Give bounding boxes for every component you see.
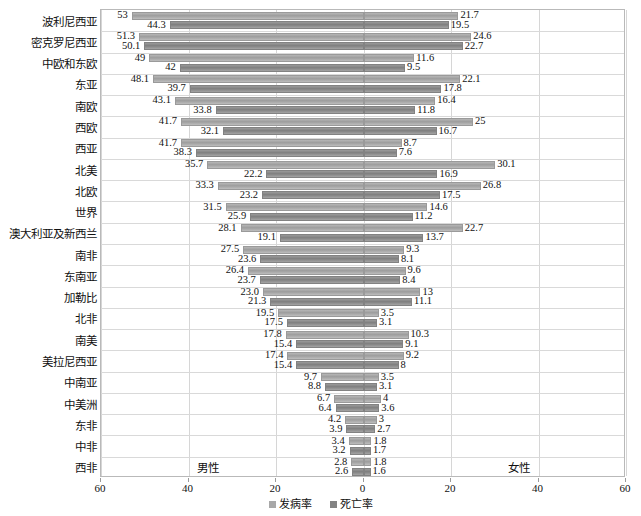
category-label-1: 密克罗尼西亚: [0, 34, 97, 50]
bar-right-mor: [364, 447, 371, 455]
bar-right-inc: [364, 139, 402, 147]
bar-row: 17.815.410.39.1: [101, 329, 624, 350]
x-tick-label-4: 20: [445, 482, 456, 494]
value-label-right-mor: 9.5: [407, 62, 420, 72]
legend-swatch-icon: [269, 501, 276, 508]
bar-left-mor: [280, 234, 364, 242]
category-label-16: 美拉尼西亚: [0, 353, 97, 369]
bar-right-inc: [364, 331, 409, 339]
value-label-left-mor: 2.6: [335, 466, 348, 476]
gridline-60: [626, 10, 627, 476]
value-label-left-mor: 50.1: [122, 41, 140, 51]
category-label-11: 南非: [0, 247, 97, 263]
bar-right-inc: [364, 395, 382, 403]
value-label-left-inc: 48.1: [131, 74, 149, 84]
value-label-left-inc: 43.1: [153, 95, 171, 105]
bar-right-mor: [364, 64, 406, 72]
bar-row: 494211.69.5: [101, 53, 624, 74]
value-label-right-mor: 1.6: [373, 466, 386, 476]
bar-right-mor: [364, 234, 424, 242]
side-caption-female: 女性: [508, 459, 530, 475]
legend-label: 发病率: [279, 498, 312, 510]
bar-row: 3.43.21.81.7: [101, 435, 624, 456]
bar-right-mor: [364, 425, 376, 433]
chart-legend: 发病率死亡率: [0, 495, 641, 511]
legend-item-incidence[interactable]: 发病率: [269, 495, 312, 511]
bar-right-inc: [364, 246, 405, 254]
bar-left-mor: [144, 42, 363, 50]
bar-right-mor: [364, 298, 413, 306]
bar-row: 23.021.31311.1: [101, 287, 624, 308]
value-label-left-mor: 42: [165, 62, 176, 72]
value-label-left-mor: 22.2: [244, 169, 262, 179]
bar-row: 28.119.122.713.7: [101, 223, 624, 244]
value-label-left-inc: 53: [117, 10, 128, 20]
bar-right-mor: [364, 340, 404, 348]
bar-left-mor: [350, 447, 364, 455]
bar-right-mor: [364, 276, 401, 284]
value-label-right-mor: 17.8: [443, 83, 461, 93]
bar-right-inc: [364, 352, 404, 360]
value-label-right-mor: 16.9: [439, 169, 457, 179]
legend-item-mortality[interactable]: 死亡率: [330, 495, 373, 511]
bar-left-inc: [287, 352, 363, 360]
bar-left-inc: [226, 203, 364, 211]
bar-right-mor: [364, 468, 371, 476]
category-label-8: 北欧: [0, 183, 97, 199]
category-label-4: 南欧: [0, 98, 97, 114]
bar-left-inc: [207, 161, 363, 169]
bar-left-inc: [345, 416, 363, 424]
bar-left-inc: [286, 331, 364, 339]
bar-left-inc: [139, 33, 363, 41]
bar-left-mor: [266, 170, 363, 178]
value-label-left-inc: 35.7: [185, 159, 203, 169]
value-label-left-mor: 6.4: [318, 403, 331, 413]
bar-row: 17.415.49.28: [101, 350, 624, 371]
value-label-left-mor: 32.1: [201, 126, 219, 136]
value-label-left-mor: 39.7: [167, 83, 185, 93]
bar-row: 27.523.69.38.1: [101, 244, 624, 265]
bar-right-mor: [364, 404, 380, 412]
bar-left-mor: [352, 468, 363, 476]
value-label-right-mor: 9.1: [405, 339, 418, 349]
value-label-left-mor: 33.8: [193, 105, 211, 115]
bar-right-inc: [364, 12, 459, 20]
bar-right-mor: [364, 21, 449, 29]
bar-row: 19.517.53.53.1: [101, 308, 624, 329]
value-label-left-mor: 15.4: [274, 360, 292, 370]
value-label-right-mor: 11.2: [415, 211, 433, 221]
category-label-15: 南美: [0, 332, 97, 348]
category-label-17: 中南亚: [0, 374, 97, 390]
value-label-right-inc: 9.2: [406, 350, 419, 360]
x-tick-label-0: 60: [95, 482, 106, 494]
value-label-left-mor: 17.5: [265, 317, 283, 327]
bar-row: 51.350.124.622.7: [101, 31, 624, 52]
bar-left-mor: [180, 64, 364, 72]
bar-left-mor: [325, 383, 364, 391]
category-label-2: 中欧和东欧: [0, 55, 97, 71]
bar-right-inc: [364, 161, 496, 169]
category-label-5: 西欧: [0, 119, 97, 135]
value-label-right-mor: 8.1: [401, 254, 414, 264]
bar-row: 35.722.230.116.9: [101, 159, 624, 180]
value-label-right-inc: 25: [475, 116, 486, 126]
value-label-right-mor: 11.8: [417, 105, 435, 115]
bar-left-inc: [243, 246, 363, 254]
bar-right-mor: [364, 383, 378, 391]
bar-row: 6.76.443.6: [101, 393, 624, 414]
bar-left-inc: [351, 458, 363, 466]
bar-right-inc: [364, 224, 463, 232]
value-label-left-mor: 23.6: [238, 254, 256, 264]
bar-left-mor: [346, 425, 363, 433]
value-label-right-inc: 16.4: [437, 95, 455, 105]
bar-row: 41.738.38.77.6: [101, 138, 624, 159]
x-tick-label-3: 0: [360, 482, 366, 494]
value-label-left-inc: 27.5: [221, 244, 239, 254]
value-label-left-mor: 25.9: [228, 211, 246, 221]
x-tick-label-2: 20: [270, 482, 281, 494]
bar-left-mor: [216, 106, 364, 114]
plot-area: 5344.321.719.551.350.124.622.7494211.69.…: [100, 9, 625, 477]
bar-right-inc: [364, 416, 377, 424]
bar-left-inc: [334, 395, 363, 403]
value-label-left-mor: 23.7: [237, 275, 255, 285]
